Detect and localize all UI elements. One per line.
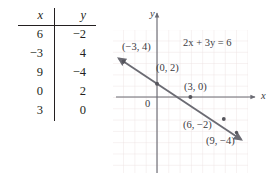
- data-point-marker: [235, 131, 238, 134]
- y-axis-label: y: [150, 8, 155, 19]
- data-point-marker: [155, 82, 159, 86]
- data-point-marker: [188, 95, 192, 99]
- equation-label: 2x + 3y = 6: [183, 37, 232, 48]
- data-point-marker: [122, 60, 126, 64]
- data-point-marker: [222, 117, 226, 121]
- point-label-9-neg4: (9, −4): [206, 135, 235, 146]
- point-label-0-2: (0, 2): [156, 62, 179, 73]
- coordinate-graph: 2x + 3y = 6 (−3, 4) (0, 2) (3, 0) (6, −2…: [0, 0, 275, 180]
- figure-root: x y 6 −2 −3 4 9 −4 0 2 3 0: [0, 0, 275, 180]
- point-label-neg3-4: (−3, 4): [122, 41, 151, 52]
- point-label-3-0: (3, 0): [184, 81, 207, 92]
- origin-label: 0: [145, 98, 150, 109]
- point-label-6-neg2: (6, −2): [183, 119, 212, 130]
- x-axis-label: x: [261, 90, 266, 101]
